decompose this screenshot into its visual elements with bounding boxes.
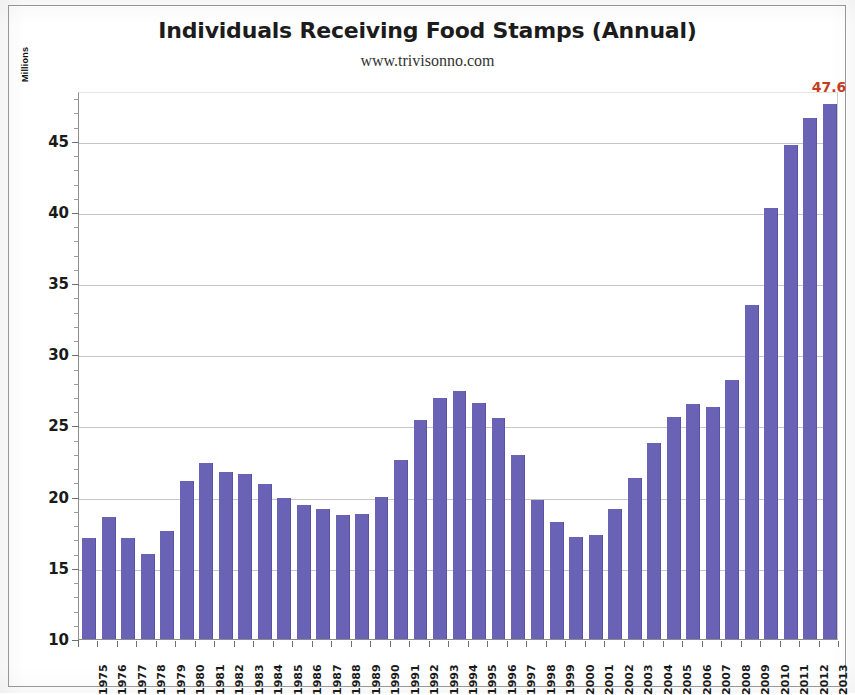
bar-1991	[394, 460, 408, 639]
y-axis-tick-label: 15	[29, 560, 69, 578]
x-axis-tick-label: 1979	[175, 679, 188, 695]
x-axis-tick-mark	[273, 641, 274, 647]
bar-2001	[589, 535, 603, 639]
x-axis-tick-mark	[780, 641, 781, 647]
bar-1990	[375, 497, 389, 639]
x-axis-tick-mark	[370, 641, 371, 647]
y-axis-tick-label: 20	[29, 489, 69, 507]
x-axis-tick-label: 1996	[506, 679, 519, 695]
bar-2000	[569, 537, 583, 639]
y-axis-minor-tick	[74, 341, 79, 342]
x-axis-tick-label: 1986	[311, 679, 324, 695]
y-axis-tick-label: 25	[29, 417, 69, 435]
gridline	[79, 143, 837, 144]
x-axis-tick-label: 2003	[642, 679, 655, 695]
bar-1999	[550, 522, 564, 639]
x-axis-tick-label: 1984	[272, 679, 285, 695]
bar-1992	[414, 420, 428, 639]
y-axis-minor-tick	[74, 313, 79, 314]
y-axis-tick-mark	[72, 213, 79, 214]
x-axis-tick-mark	[585, 641, 586, 647]
y-axis-minor-tick	[74, 612, 79, 613]
x-axis-tick-label: 1998	[545, 679, 558, 695]
x-axis-tick-mark	[175, 641, 176, 647]
x-axis-tick-mark	[741, 641, 742, 647]
x-axis-tick-mark	[195, 641, 196, 647]
bar-2009	[745, 305, 759, 639]
x-axis-tick-mark	[663, 641, 664, 647]
bar-1985	[277, 498, 291, 639]
x-axis-tick-mark	[117, 641, 118, 647]
y-axis-minor-tick	[74, 256, 79, 257]
gridline	[79, 214, 837, 215]
x-axis-tick-label: 2011	[798, 679, 811, 695]
y-axis-minor-tick	[74, 455, 79, 456]
x-axis-tick-mark	[97, 641, 98, 647]
bar-1986	[297, 505, 311, 639]
x-axis-tick-label: 2001	[603, 679, 616, 695]
x-axis-tick-mark	[624, 641, 625, 647]
x-axis-tick-mark	[819, 641, 820, 647]
bar-2012	[803, 118, 817, 639]
x-axis-tick-mark	[468, 641, 469, 647]
y-axis-minor-tick	[74, 555, 79, 556]
x-axis-tick-mark	[409, 641, 410, 647]
x-axis-tick-label: 1993	[448, 679, 461, 695]
bar-2007	[706, 407, 720, 639]
y-axis-tick-mark	[72, 426, 79, 427]
bar-1978	[141, 554, 155, 639]
y-axis-minor-tick	[74, 412, 79, 413]
y-axis-minor-tick	[74, 99, 79, 100]
bar-1989	[355, 514, 369, 639]
bar-1982	[219, 472, 233, 639]
bar-2003	[628, 478, 642, 639]
y-axis-minor-tick	[74, 113, 79, 114]
y-axis-tick-label: 30	[29, 346, 69, 364]
x-axis-tick-label: 1983	[253, 679, 266, 695]
y-axis-minor-tick	[74, 327, 79, 328]
bar-1976	[102, 517, 116, 639]
y-axis-minor-tick	[74, 597, 79, 598]
x-axis-tick-label: 2005	[681, 679, 694, 695]
y-axis-minor-tick	[74, 241, 79, 242]
x-axis-tick-mark	[702, 641, 703, 647]
x-axis-tick-label: 2006	[701, 679, 714, 695]
y-axis-minor-tick	[74, 626, 79, 627]
bar-1979	[160, 531, 174, 639]
y-axis-tick-label: 45	[29, 133, 69, 151]
x-axis-tick-label: 1978	[155, 679, 168, 695]
bar-2013	[823, 104, 837, 639]
x-axis-tick-mark	[78, 641, 79, 647]
page-title: Individuals Receiving Food Stamps (Annua…	[0, 18, 855, 43]
y-axis-minor-tick	[74, 441, 79, 442]
bar-2004	[647, 443, 661, 639]
y-axis-minor-tick	[74, 540, 79, 541]
bar-1994	[453, 391, 467, 639]
chart-subtitle-source: www.trivisonno.com	[0, 52, 855, 70]
x-axis-tick-mark	[507, 641, 508, 647]
x-axis-tick-label: 2002	[623, 679, 636, 695]
y-axis-minor-tick	[74, 227, 79, 228]
y-axis-minor-tick	[74, 384, 79, 385]
x-axis-tick-label: 2013	[837, 679, 850, 695]
y-axis-tick-mark	[72, 142, 79, 143]
x-axis-tick-mark	[721, 641, 722, 647]
y-axis-minor-tick	[74, 298, 79, 299]
x-axis-tick-label: 2012	[818, 679, 831, 695]
bar-1975	[82, 538, 96, 639]
y-axis-tick-mark	[72, 498, 79, 499]
x-axis-tick-label: 1989	[370, 679, 383, 695]
bar-1977	[121, 538, 135, 639]
y-axis-minor-tick	[74, 270, 79, 271]
x-axis-tick-label: 1988	[350, 679, 363, 695]
gridline	[79, 356, 837, 357]
x-axis-tick-mark	[136, 641, 137, 647]
bar-2010	[764, 208, 778, 639]
x-axis-tick-label: 1982	[233, 679, 246, 695]
bar-1988	[336, 515, 350, 639]
x-axis-tick-label: 2007	[720, 679, 733, 695]
x-axis-tick-mark	[487, 641, 488, 647]
x-axis-tick-label: 2009	[759, 679, 772, 695]
bar-2006	[686, 404, 700, 639]
